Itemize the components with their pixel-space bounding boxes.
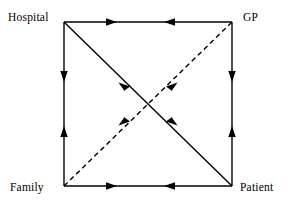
- arrowhead-family-to-patient: [106, 182, 117, 189]
- arrowhead-hospital-to-gp: [106, 18, 117, 25]
- arrowhead-patient-to-hospital: [166, 117, 178, 125]
- graph-svg: [0, 0, 292, 206]
- arrowhead-hospital-to-patient: [119, 83, 131, 91]
- arrowhead-gp-to-patient: [228, 71, 235, 82]
- arrowhead-family-to-gp-upper: [166, 83, 178, 91]
- arrowhead-gp-to-hospital: [164, 18, 175, 25]
- diagram-canvas: Hospital GP Family Patient: [0, 0, 292, 206]
- arrowhead-family-to-gp-lower: [119, 117, 131, 125]
- arrowhead-patient-to-gp: [228, 126, 235, 137]
- arrowhead-patient-to-family: [164, 182, 175, 189]
- node-label-family: Family: [10, 181, 44, 193]
- arrowhead-family-to-hospital: [60, 126, 67, 137]
- node-label-patient: Patient: [240, 181, 273, 193]
- node-label-gp: GP: [243, 11, 258, 23]
- arrowhead-hospital-to-family: [60, 71, 67, 82]
- node-label-hospital: Hospital: [8, 11, 49, 23]
